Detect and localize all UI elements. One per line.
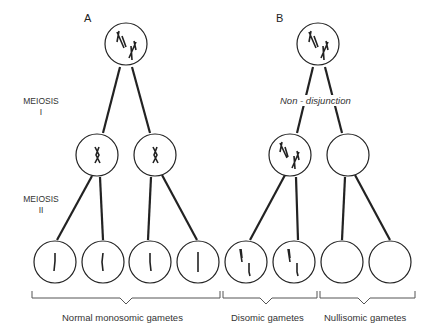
- cells-a: [34, 23, 219, 283]
- stage-label-meiosis-1: MEIOSIS I: [18, 96, 64, 118]
- meiosis1-cell-b-empty: [327, 134, 369, 176]
- non-disjunction-label: Non - disjunction: [279, 95, 352, 106]
- gamete-group-label-disomic: Disomic gametes: [231, 312, 304, 323]
- stage-label-meiosis-2: MEIOSIS II: [18, 194, 64, 216]
- panel-label-a: A: [84, 12, 91, 24]
- cells-b: [225, 23, 411, 283]
- parent-cell-b: [297, 23, 339, 65]
- gamete-group-label-monosomic: Normal monosomic gametes: [62, 312, 183, 323]
- gamete-group-label-nullisomic: Nullisomic gametes: [324, 312, 406, 323]
- meiosis1-cell-b-disomic: [269, 134, 311, 176]
- group-brackets: [32, 291, 415, 304]
- bracket-monosomic: [32, 291, 220, 304]
- parent-cell-a: [105, 23, 147, 65]
- bracket-disomic: [223, 291, 317, 304]
- meiosis1-cell-a-right: [134, 134, 176, 176]
- meiosis-diagram: [0, 0, 437, 336]
- bracket-nullisomic: [320, 291, 415, 304]
- meiosis1-cell-a-left: [76, 134, 118, 176]
- panel-label-b: B: [276, 12, 283, 24]
